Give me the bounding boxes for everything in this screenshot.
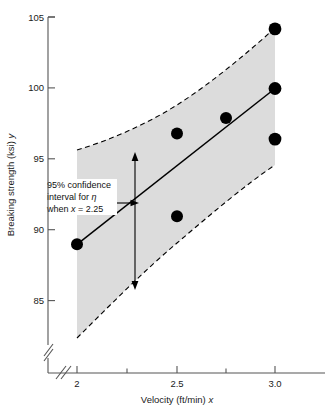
data-point: [220, 112, 232, 124]
y-tick-label: 105: [28, 12, 44, 23]
y-axis-title-main: Breaking strength (ksi): [5, 139, 16, 237]
x-axis-title-var: x: [207, 394, 214, 405]
x-axis-title: Velocity (ft/min) x: [141, 394, 215, 405]
data-point: [171, 210, 183, 222]
y-axis-title-var: y: [5, 133, 16, 140]
y-tick-label: 90: [33, 224, 44, 235]
figure-container: 95% confidence interval for η when x = 2…: [0, 0, 333, 415]
x-tick-label: 2: [74, 378, 79, 389]
data-point: [171, 128, 183, 140]
y-axis-title: Breaking strength (ksi) y: [5, 133, 16, 237]
y-axis-tick-labels: 105 100 95 90 85: [28, 12, 44, 307]
annotation-eta-symbol: η: [92, 192, 97, 202]
annotation-line-2: interval for η: [47, 192, 97, 202]
scatter-plot-with-confidence-band: 95% confidence interval for η when x = 2…: [0, 0, 333, 415]
data-point: [71, 238, 83, 250]
confidence-interval-annotation: 95% confidence interval for η when x = 2…: [46, 179, 117, 215]
data-point: [269, 23, 282, 36]
annotation-line-2-prefix: interval for: [47, 192, 92, 202]
x-axis-title-main: Velocity (ft/min): [141, 394, 209, 405]
y-tick-label: 100: [28, 82, 44, 93]
y-tick-label: 95: [33, 153, 44, 164]
annotation-x-value: = 2.25: [76, 204, 104, 214]
x-tick-label: 2.5: [170, 378, 183, 389]
annotation-line-3: when x = 2.25: [46, 204, 103, 214]
data-point: [269, 82, 282, 95]
x-axis-ticks: [77, 366, 275, 373]
x-tick-label: 3.0: [268, 378, 281, 389]
data-point: [269, 133, 282, 146]
y-tick-label: 85: [33, 295, 44, 306]
y-axis-ticks: [48, 17, 55, 301]
annotation-line-3-prefix: when: [46, 204, 71, 214]
annotation-line-1: 95% confidence: [47, 180, 111, 190]
x-axis-tick-labels: 2 2.5 3.0: [74, 378, 281, 389]
